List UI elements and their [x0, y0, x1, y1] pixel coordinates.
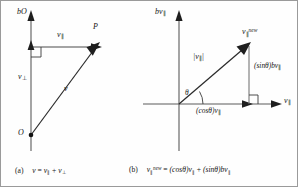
panel-b-caption-term2-sub: ∥: [228, 169, 231, 175]
panel-b-sin-component-text: (sinθ)bv: [254, 61, 278, 70]
panel-a-v-vector-text: v: [64, 84, 68, 93]
panel-b-haxis-sub: ∥: [288, 99, 291, 105]
panel-b-caption-prefix: (b): [129, 165, 138, 174]
panel-a-vertical-axis-arrowhead: [27, 10, 34, 21]
panel-a-vertical-axis-label: bO: [17, 8, 27, 16]
panel-a-v-perp-sub: ⊥: [22, 75, 27, 81]
panel-a-axis-label-text: bO: [17, 7, 27, 16]
panel-a-origin-text: O: [18, 128, 24, 137]
panel-b-theta-label: θ: [185, 89, 189, 96]
panel-b-sin-component-label: (sinθ)bv∥: [254, 62, 281, 71]
panel-b-rotation-decomposition: bv∥ v∥ |v∥| v∥new (sinθ)bv∥ (cosθ)v∥ θ (…: [141, 1, 299, 188]
panel-b-result-sup: new: [249, 27, 258, 33]
panel-a-point-p-text: P: [93, 22, 98, 31]
panel-a-caption-prefix: (a): [15, 166, 23, 175]
panel-b-drawing: [141, 1, 299, 188]
panel-a-v-vector-label: v: [64, 85, 68, 93]
figure-container: bO v∥ P v⊥ v O (a) v = v∥ + v⊥: [0, 0, 298, 187]
panel-b-vertical-axis-arrowhead: [175, 10, 182, 21]
panel-a-v-parallel-sub: ∥: [61, 33, 64, 39]
panel-b-cos-component-arrowhead: [242, 100, 253, 108]
panel-a-v-vector-shaft: [31, 51, 93, 135]
panel-a-v-perp-label: v⊥: [18, 73, 27, 82]
panel-a-caption-plus: +: [52, 166, 56, 175]
panel-a-caption-lhs: v: [32, 166, 35, 175]
panel-b-cos-component-label: (cosθ)v∥: [196, 107, 221, 116]
panel-b-theta-arc: [200, 92, 204, 105]
panel-b-caption-plus: +: [197, 165, 201, 174]
panel-b-cos-component-sub: ∥: [218, 109, 221, 115]
panel-a-origin-label: O: [18, 129, 24, 137]
panel-a-v-parallel-label: v∥: [57, 31, 64, 40]
panel-b-caption-term1: (cosθ)v: [170, 165, 192, 174]
panel-b-sin-component-sub: ∥: [278, 64, 281, 70]
panel-a-caption-term1-sub: ∥: [47, 169, 50, 175]
panel-b-theta-text: θ: [185, 88, 189, 97]
panel-a-drawing: [1, 1, 141, 188]
panel-b-magnitude-label: |v∥|: [193, 53, 204, 62]
panel-b-vertical-axis-label: bv∥: [155, 8, 166, 17]
panel-b-caption-term1-sub: ∥: [192, 169, 195, 175]
panel-b-caption-lhs-sup: new: [153, 165, 161, 171]
panel-b-horizontal-axis-arrowhead: [271, 100, 282, 108]
panel-a-point-p-label: P: [93, 23, 98, 31]
panel-b-vaxis-base: bv: [155, 7, 163, 16]
panel-a-caption: (a) v = v∥ + v⊥: [15, 166, 66, 175]
panel-a-caption-eq: =: [38, 166, 42, 175]
panel-b-caption-term2: (sinθ)bv: [203, 165, 228, 174]
panel-b-cos-component-text: (cosθ)v: [196, 106, 218, 115]
panel-b-right-angle-marker: [249, 95, 258, 104]
panel-a-origin-dot: [29, 133, 34, 138]
panel-b-result-label: v∥new: [242, 28, 257, 37]
panel-b-caption: (b) v∥new = (cosθ)v∥ + (sinθ)bv∥: [129, 165, 231, 175]
panel-b-magnitude-close: |: [202, 52, 204, 61]
panel-b-horizontal-axis-label: v∥: [284, 97, 291, 106]
panel-b-caption-eq: =: [163, 165, 167, 174]
panel-a-caption-term2-sub: ⊥: [62, 169, 66, 175]
panel-a-v-perp-arrowhead: [28, 40, 35, 50]
panel-a-vector-decomposition: bO v∥ P v⊥ v O (a) v = v∥ + v⊥: [1, 1, 141, 188]
panel-b-vaxis-sub: ∥: [163, 10, 166, 16]
